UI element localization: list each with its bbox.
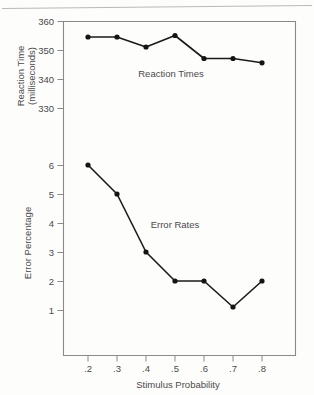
ytick-label-340: 340: [38, 74, 54, 85]
reaction-time-axis-title: Reaction Time (milliseconds): [15, 46, 37, 107]
xtick-label-2: .4: [142, 363, 150, 374]
error-percentage-axis-title: Error Percentage: [22, 207, 33, 279]
error-rates-series: [85, 162, 264, 309]
ytick-label-360: 360: [38, 16, 54, 27]
ytick-label-5: 5: [49, 189, 54, 200]
reaction-times-annotation: Reaction Times: [138, 68, 204, 79]
figure-container: 360 350 340 330 Reaction Time (milliseco…: [0, 0, 314, 395]
ytick-label-330: 330: [38, 103, 54, 114]
reaction-time-y-axis: 360 350 340 330: [38, 16, 63, 114]
data-point: [114, 34, 119, 39]
data-point: [143, 44, 148, 49]
ytick-label-1: 1: [49, 305, 54, 316]
axis-title-line2: (milliseconds): [26, 47, 37, 105]
xtick-label-5: .7: [229, 363, 237, 374]
error-percentage-y-axis: 6 5 4 3 2 1: [49, 160, 64, 316]
data-point: [259, 60, 264, 65]
data-point: [201, 56, 206, 61]
xtick-label-1: .3: [113, 363, 121, 374]
error-rates-annotation: Error Rates: [151, 219, 200, 230]
data-point: [172, 33, 177, 38]
xtick-label-6: .8: [258, 363, 266, 374]
x-axis-title: Stimulus Probability: [136, 379, 220, 390]
data-point: [114, 191, 119, 196]
data-point: [85, 162, 90, 167]
xtick-label-3: .5: [171, 363, 179, 374]
data-point: [85, 34, 90, 39]
data-point: [259, 278, 264, 283]
data-point: [201, 278, 206, 283]
ytick-label-350: 350: [38, 45, 54, 56]
error-rates-line: [88, 165, 262, 307]
data-point: [143, 249, 148, 254]
data-point: [230, 304, 235, 309]
ytick-label-3: 3: [49, 247, 54, 258]
reaction-times-line: [88, 36, 262, 63]
chart-svg: 360 350 340 330 Reaction Time (milliseco…: [0, 0, 314, 395]
data-point: [230, 56, 235, 61]
page-rule: [2, 6, 312, 9]
ytick-label-2: 2: [49, 276, 54, 287]
xtick-label-4: .6: [200, 363, 208, 374]
data-point: [172, 278, 177, 283]
ytick-label-6: 6: [49, 160, 54, 171]
reaction-times-series: [85, 33, 264, 66]
axis-title-line1: Reaction Time: [15, 46, 26, 107]
xtick-label-0: .2: [84, 363, 92, 374]
ytick-label-4: 4: [49, 218, 54, 229]
x-axis: .2 .3 .4 .5 .6 .7 .8: [84, 356, 266, 375]
